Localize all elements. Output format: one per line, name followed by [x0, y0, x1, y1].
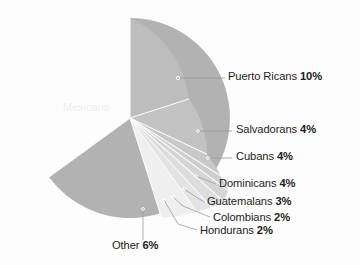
pie-chart: Mexicans 65% Puerto Ricans 10% Salvadora…	[0, 0, 360, 265]
slice-label-puerto-ricans-value: 10%	[300, 70, 322, 82]
slice-label-colombians-name: Colombians	[213, 211, 274, 223]
slice-label-salvadorans-name: Salvadorans	[236, 123, 300, 135]
slice-label-cubans-name: Cubans	[236, 150, 277, 162]
slice-label-salvadorans-value: 4%	[300, 123, 316, 135]
slice-label-colombians: Colombians 2%	[213, 212, 290, 223]
slice-label-cubans: Cubans 4%	[236, 151, 293, 162]
slice-label-colombians-value: 2%	[274, 211, 290, 223]
slice-label-mexicans-value: 65%	[48, 114, 124, 129]
slice-label-other-name: Other	[112, 239, 143, 251]
slice-label-guatemalans: Guatemalans 3%	[207, 196, 291, 207]
slice-label-guatemalans-value: 3%	[275, 195, 291, 207]
slice-label-cubans-value: 4%	[277, 150, 293, 162]
slice-label-hondurans-name: Hondurans	[200, 224, 257, 236]
slice-label-hondurans: Hondurans 2%	[200, 225, 273, 236]
slice-label-dominicans-name: Dominicans	[219, 177, 279, 189]
slice-label-hondurans-value: 2%	[257, 224, 273, 236]
slice-label-mexicans-name: Mexicans	[48, 101, 124, 114]
slice-label-dominicans-value: 4%	[279, 177, 295, 189]
slice-label-dominicans: Dominicans 4%	[219, 178, 295, 189]
slice-label-mexicans: Mexicans 65%	[48, 101, 124, 129]
slice-label-other: Other 6%	[112, 240, 158, 251]
slice-label-other-value: 6%	[143, 239, 159, 251]
slice-label-puerto-ricans: Puerto Ricans 10%	[228, 71, 322, 82]
slice-label-salvadorans: Salvadorans 4%	[236, 124, 316, 135]
slice-label-guatemalans-name: Guatemalans	[207, 195, 275, 207]
slice-label-puerto-ricans-name: Puerto Ricans	[228, 70, 300, 82]
